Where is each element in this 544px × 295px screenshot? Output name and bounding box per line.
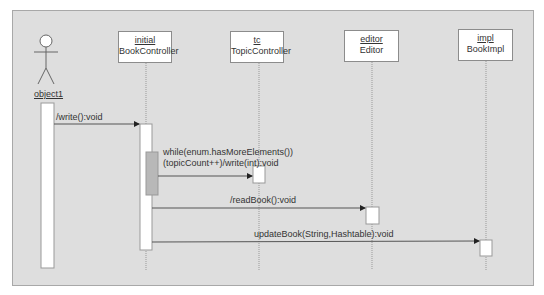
- message-loop-line1: while(enum.hasMoreElements()): [163, 147, 293, 158]
- actor-label: object1: [34, 89, 63, 99]
- instance-name: tc: [231, 32, 283, 46]
- actor-icon: [34, 35, 58, 84]
- instance-name: editor: [345, 31, 398, 45]
- message-updatebook: updateBook(String,Hashtable):void: [254, 229, 394, 240]
- instance-name: initial: [119, 32, 171, 46]
- message-readbook: /readBook():void: [230, 195, 296, 206]
- lifeline-editor[interactable]: editor Editor: [344, 30, 399, 62]
- class-name: Editor: [345, 45, 398, 56]
- message-loop-line2: (topicCount++)/write(int):void: [163, 158, 279, 169]
- lifeline-tc[interactable]: tc TopicController: [230, 31, 284, 63]
- message-write: /write():void: [56, 112, 103, 123]
- lifeline-initial[interactable]: initial BookController: [118, 31, 172, 63]
- class-name: BookController: [119, 46, 171, 57]
- class-name: BookImpl: [459, 44, 512, 55]
- class-name: TopicController: [231, 46, 283, 57]
- lifeline-impl[interactable]: impl BookImpl: [458, 29, 513, 61]
- instance-name: impl: [459, 30, 512, 44]
